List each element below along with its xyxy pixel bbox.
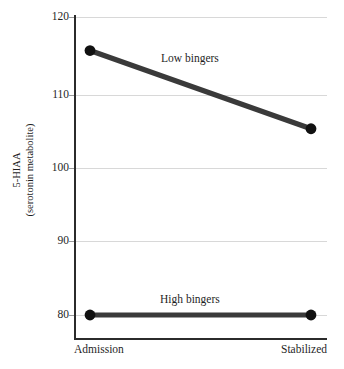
y-tick-label-110: 110 bbox=[36, 89, 69, 101]
y-axis-label-line1: 5-HIAA bbox=[9, 123, 22, 216]
y-tick-label-90: 90 bbox=[36, 235, 69, 247]
y-axis-tick-labels: 120 110 100 90 80 bbox=[36, 0, 69, 340]
gridline-90 bbox=[74, 241, 327, 242]
y-tick-label-120: 120 bbox=[36, 11, 69, 23]
y-tick-label-100: 100 bbox=[36, 162, 69, 174]
gridline-120 bbox=[74, 17, 327, 18]
x-tick-label-admission: Admission bbox=[74, 342, 124, 356]
series-label-high-bingers: High bingers bbox=[160, 293, 220, 306]
y-axis-line bbox=[74, 15, 76, 339]
y-axis-label-line2: (serotonin metabolite) bbox=[22, 123, 35, 216]
plot-area bbox=[74, 17, 327, 338]
x-axis-line bbox=[74, 338, 327, 340]
y-tick-label-80: 80 bbox=[36, 309, 69, 321]
series-label-low-bingers: Low bingers bbox=[161, 52, 219, 65]
chart-figure: 5-HIAA (serotonin metabolite) 120 110 10… bbox=[0, 0, 344, 369]
x-tick-label-stabilized: Stabilized bbox=[281, 342, 327, 356]
gridline-80 bbox=[74, 315, 327, 316]
gridline-100 bbox=[74, 168, 327, 169]
gridline-110 bbox=[74, 95, 327, 96]
